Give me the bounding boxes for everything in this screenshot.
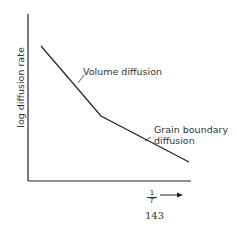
grain-boundary-label-line1: Grain boundary [154,124,228,135]
x-label-denominator: T [150,197,154,205]
grain-boundary-label-line2: diffusion [154,135,195,146]
arrow-head-icon [177,193,183,198]
page-number: 143 [145,210,164,221]
x-axis-label: 1 T [147,190,157,205]
diagram-canvas [0,0,237,226]
y-axis-label: log diffusion rate [15,28,26,148]
volume-diffusion-label: Volume diffusion [83,66,162,77]
